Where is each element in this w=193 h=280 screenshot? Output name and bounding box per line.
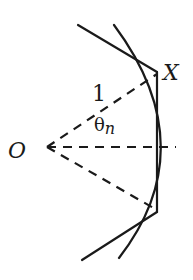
upper-tangent-line [78,25,157,72]
point-x-label: X [161,60,180,85]
lower-tangent-line [82,212,157,260]
angle-symbol: θ [94,114,105,135]
dashed-radius-lower [47,147,157,210]
geometry-diagram: O X 1 θn [0,0,193,280]
angle-subscript: n [105,119,115,138]
origin-label: O [8,138,26,163]
angle-label: θn [94,114,115,138]
radius-label: 1 [92,81,106,106]
